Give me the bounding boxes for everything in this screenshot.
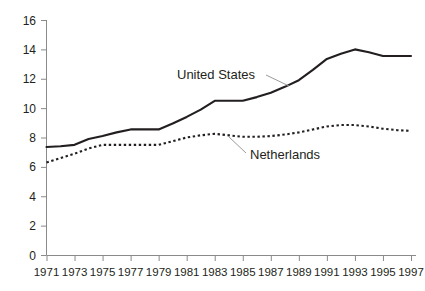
y-tick-label: 6 — [29, 160, 36, 174]
y-tick-label: 12 — [23, 72, 37, 86]
x-tick-label: 1983 — [202, 266, 228, 278]
y-tick-label: 0 — [29, 249, 36, 263]
x-tick-label: 1995 — [370, 266, 396, 278]
x-tick-label: 1991 — [314, 266, 340, 278]
x-tick-label: 1981 — [174, 266, 200, 278]
y-tick-label: 8 — [29, 131, 36, 145]
y-tick-label: 16 — [23, 14, 37, 28]
x-tick-label: 1977 — [118, 266, 144, 278]
y-tick-label: 2 — [29, 219, 36, 233]
x-tick-label: 1985 — [230, 266, 256, 278]
x-tick-label: 1987 — [258, 266, 284, 278]
series-annotation-label: United States — [177, 67, 256, 82]
x-tick-label: 1971 — [34, 266, 60, 278]
x-tick-label: 1979 — [146, 266, 172, 278]
y-tick-label: 14 — [23, 43, 37, 57]
x-tick-label: 1973 — [62, 266, 88, 278]
y-tick-label: 10 — [23, 102, 37, 116]
x-tick-label: 1997 — [398, 266, 424, 278]
line-chart: 0246810121416 19711973197519771979198119… — [0, 0, 425, 291]
series-annotation-label: Netherlands — [250, 147, 321, 162]
chart-canvas: 0246810121416 19711973197519771979198119… — [0, 0, 425, 291]
x-tick-label: 1989 — [286, 266, 312, 278]
x-tick-label: 1993 — [342, 266, 368, 278]
y-tick-label: 4 — [29, 190, 36, 204]
x-tick-label: 1975 — [90, 266, 116, 278]
